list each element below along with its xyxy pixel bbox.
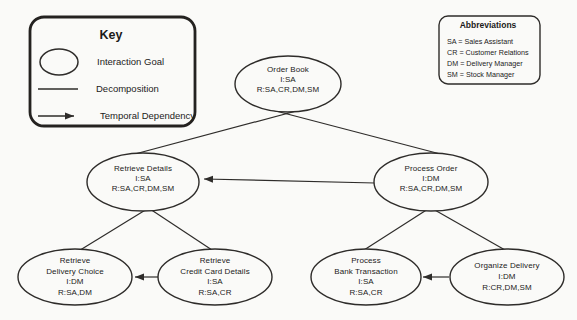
edge-processorder-organizedelivery <box>433 209 505 250</box>
key-label-interaction-goal: Interaction Goal <box>97 56 164 67</box>
abbreviation-cr: CR = Customer Relations <box>447 48 529 57</box>
edge-retrievedetails-deliverychoice <box>77 209 147 252</box>
node-roles: R:SA,DM <box>58 288 92 297</box>
node-order-book: Order Book I:SA R:SA,CR,DM,SM <box>235 56 341 112</box>
arrow-processorder-to-retrievedetails <box>204 179 375 183</box>
node-retrieve-details: Retrieve Details I:SA R:SA,CR,DM,SM <box>87 153 199 211</box>
node-label-line2: Credit Card Details <box>180 267 249 276</box>
node-initiator: I:DM <box>498 272 516 281</box>
node-initiator: I:DM <box>66 277 84 286</box>
abbreviation-sa: SA = Sales Assistant <box>447 37 513 46</box>
abbreviations-title: Abbreviations <box>460 20 517 30</box>
node-label-line1: Process <box>351 256 381 265</box>
key-legend: Key Interaction Goal Decomposition Tempo… <box>30 17 195 126</box>
node-label-line2: Bank Transaction <box>334 267 397 276</box>
edge-retrievedetails-creditcard <box>150 209 212 250</box>
node-roles: R:SA,CR <box>349 288 382 297</box>
node-label-line1: Retrieve <box>60 256 91 265</box>
node-organize-delivery: Organize Delivery I:DM R:CR,DM,SM <box>450 249 564 305</box>
edge-processorder-banktransaction <box>364 209 428 250</box>
node-roles: R:SA,CR,DM,SM <box>112 184 175 193</box>
node-initiator: I:DM <box>422 174 440 183</box>
node-label-line1: Retrieve <box>200 256 231 265</box>
node-roles: R:SA,CR,DM,SM <box>400 184 463 193</box>
node-retrieve-credit-card-details: Retrieve Credit Card Details I:SA R:SA,C… <box>158 249 272 305</box>
node-initiator: I:SA <box>135 174 151 183</box>
key-title: Key <box>100 28 123 42</box>
interaction-goal-diagram: Order Book I:SA R:SA,CR,DM,SM Retrieve D… <box>0 0 577 320</box>
node-retrieve-delivery-choice: Retrieve Delivery Choice I:DM R:SA,DM <box>18 249 132 305</box>
node-initiator: I:SA <box>207 277 223 286</box>
node-initiator: I:SA <box>280 75 296 84</box>
node-roles: R:SA,CR,DM,SM <box>257 85 320 94</box>
abbreviation-sm: SM = Stock Manager <box>447 70 515 79</box>
abbreviations-panel: Abbreviations SA = Sales Assistant CR = … <box>439 16 540 84</box>
node-label: Process Order <box>405 164 458 173</box>
node-label: Order Book <box>267 65 310 74</box>
edge-orderbook-processorder <box>272 110 448 156</box>
node-label-line2: Delivery Choice <box>46 267 104 276</box>
key-label-temporal-dependency: Temporal Dependency <box>100 110 195 121</box>
node-process-order: Process Order I:DM R:SA,CR,DM,SM <box>374 153 488 211</box>
node-label: Retrieve Details <box>114 164 172 173</box>
key-label-decomposition: Decomposition <box>96 83 159 94</box>
node-initiator: I:SA <box>358 277 374 286</box>
node-roles: R:CR,DM,SM <box>482 283 532 292</box>
node-roles: R:SA,CR <box>198 288 231 297</box>
node-label: Organize Delivery <box>474 261 539 270</box>
abbreviation-dm: DM = Delivery Manager <box>447 59 523 68</box>
node-process-bank-transaction: Process Bank Transaction I:SA R:SA,CR <box>311 249 421 305</box>
